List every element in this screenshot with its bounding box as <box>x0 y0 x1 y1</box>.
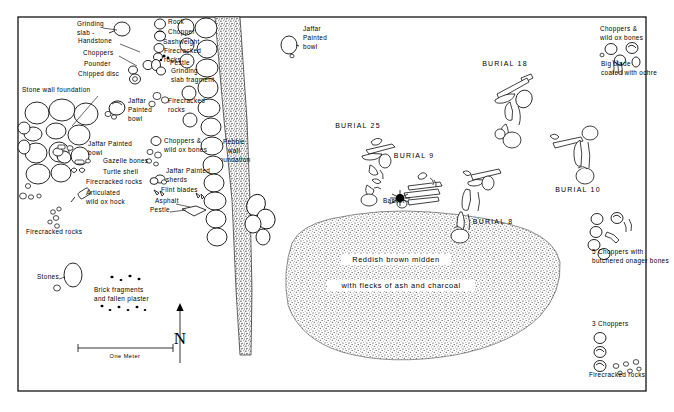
label-firecracked-rocks-lower: Firecracked rocks <box>26 228 82 235</box>
label-jaffar-painted-bowl-top-right: bowl <box>303 43 318 50</box>
burial-label-4: BURIAL 18 <box>482 60 528 67</box>
burial-10-skeleton <box>550 126 598 184</box>
pebble-wall-label-2: wall <box>227 147 240 154</box>
label-grinding-slab-fragment: Grinding <box>171 67 198 75</box>
label-jaffar-painted-bowl-upper: Jaffar <box>128 97 146 104</box>
label-choppers-left: Choppers <box>83 49 114 57</box>
burial-label-5: BURIAL 10 <box>555 186 601 193</box>
label-articulated-wild-ox-hock: wild ox hock <box>85 198 125 205</box>
burial-18-skeleton <box>495 74 535 148</box>
label-jaffar-painted-bowl-mid: bowl <box>88 149 103 156</box>
midden-label-line2: with flecks of ash and charcoal <box>340 281 460 290</box>
label-rock: Rock <box>168 18 184 25</box>
north-arrow: N <box>174 303 186 363</box>
label-pestle-top: Pestle <box>170 59 190 66</box>
label-grinding-slab-fragment: slab fragment <box>171 76 214 84</box>
label-grinding-slab: Grinding <box>77 20 104 28</box>
burial-label-3: BURIAL 8 <box>473 218 513 225</box>
label-jaffar-painted-bowl-upper: bowl <box>128 115 143 122</box>
label-choppers-wild-ox-bones-right: Choppers & <box>600 25 638 33</box>
label-jaffar-painted-bowl-top-right: Jaffar <box>303 25 321 32</box>
label-basket: Basket <box>383 197 405 204</box>
burial-25-skeleton <box>361 138 395 206</box>
find-jaffar-bowl-top <box>281 36 299 58</box>
label-choppers-wild-ox-bones-mid: wild ox bones <box>163 146 207 153</box>
label-big-blade-ochre: Big blade <box>601 60 631 68</box>
label-jaffar-painted-sherds: sherds <box>166 176 187 183</box>
label-choppers-onager: 5 Choppers with <box>592 248 644 256</box>
label-asphalt: Asphalt <box>155 197 179 205</box>
label-pounder: Pounder <box>84 60 111 67</box>
label-articulated-wild-ox-hock: Articulated <box>86 189 120 196</box>
label-firecracked-rocks-mid: Firecracked rocks <box>86 178 142 185</box>
label-chipped-disc: Chipped disc <box>78 70 120 78</box>
label-chopper: Chopper <box>168 28 195 36</box>
label-firecracked-rocks-top: Firecracked <box>164 47 201 54</box>
label-firecracked-rocks-upper: Firecracked <box>168 97 205 104</box>
label-turtle-shell: Turtle shell <box>103 168 138 175</box>
scale-bar: One Meter <box>78 344 173 359</box>
label-handstone: Handstone <box>78 37 112 44</box>
finds-bottom-right <box>594 333 641 375</box>
label-big-blade-ochre: coated with ochre <box>601 69 657 76</box>
label-choppers-onager: butchered onager bones <box>592 257 669 265</box>
scale-bar-label: One Meter <box>110 353 141 359</box>
pebble-wall-label-1: Pebble <box>223 138 245 145</box>
label-jaffar-painted-sherds: Jaffar Painted <box>166 167 210 174</box>
midden-label-line1: Reddish brown midden <box>352 255 440 264</box>
burial-label-1: BURIAL 25 <box>335 122 381 129</box>
label-stones: Stones <box>37 273 59 280</box>
north-label: N <box>174 329 186 348</box>
label-three-choppers: 3 Choppers <box>592 320 629 328</box>
label-flint-blades: Flint blades <box>161 186 198 193</box>
reddish-brown-midden: Reddish brown midden with flecks of ash … <box>286 211 560 360</box>
label-firecracked-rocks-br: Firecracked rocks <box>589 371 645 378</box>
label-brick-fragments: and fallen plaster <box>94 295 149 303</box>
label-sashweight: Sashweight <box>163 38 200 46</box>
label-jaffar-painted-bowl-upper: Painted <box>128 106 152 113</box>
label-brick-fragments: Brick fragments <box>94 286 144 294</box>
label-grinding-slab: slab - <box>77 29 95 36</box>
label-jaffar-painted-bowl-mid: Jaffar Painted <box>88 140 132 147</box>
label-stone-wall-foundation: Stone wall foundation <box>22 86 91 93</box>
label-choppers-wild-ox-bones-right: wild ox bones <box>599 34 643 41</box>
burial-label-2: BURIAL 9 <box>394 152 434 159</box>
label-choppers-wild-ox-bones-mid: Choppers & <box>164 137 202 145</box>
label-pestle-lower: Pestle <box>150 206 170 213</box>
label-jaffar-painted-bowl-top-right: Painted <box>303 34 327 41</box>
stone-wall-foundation-cluster <box>18 99 98 184</box>
label-firecracked-rocks-upper: rocks <box>168 106 185 113</box>
label-gazelle-bones: Gazelle bones <box>103 157 148 164</box>
site-plan-figure: Pebble wall foundation <box>0 0 674 412</box>
